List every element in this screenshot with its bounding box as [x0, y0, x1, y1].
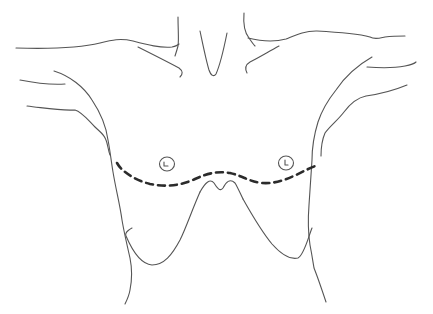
- torso-left-side: [54, 71, 132, 304]
- shoulder-left: [16, 40, 179, 49]
- clavicle-left: [138, 47, 182, 77]
- throat-notch: [200, 31, 227, 76]
- shoulder-right: [248, 31, 405, 41]
- neck-right-contour: [244, 13, 255, 46]
- nipple-right-mark: [285, 160, 288, 165]
- breast-right-fold: [243, 199, 312, 258]
- torso-drawing: [0, 0, 433, 314]
- torso-right-side: [308, 57, 372, 302]
- neck-left-contour: [175, 17, 178, 56]
- anatomy-diagram: [0, 0, 433, 314]
- nipple-right: [279, 156, 294, 170]
- nipple-left-mark: [164, 162, 168, 166]
- nipple-left: [160, 157, 175, 171]
- xiphoid-contour: [200, 181, 243, 199]
- clavicle-right: [246, 46, 279, 73]
- inframammary-incision-line: [117, 163, 318, 186]
- arm-right-upper: [367, 62, 416, 68]
- arm-right-lower: [321, 85, 407, 156]
- arm-left-upper: [20, 80, 65, 84]
- breast-left-fold: [126, 192, 200, 265]
- arm-left-lower: [27, 106, 110, 155]
